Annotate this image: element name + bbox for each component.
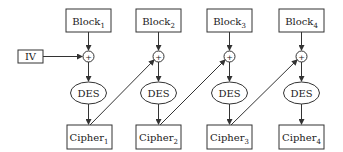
svg-text:DES: DES [290,88,312,99]
svg-text:+: + [155,53,162,62]
column-2: Block2 + DES Cipher2 [136,9,181,149]
cbc-diagram: IV Block1 + DES Cipher1 Block2 + DES Cip… [0,0,343,152]
svg-text:DES: DES [218,88,240,99]
svg-text:+: + [298,53,305,62]
iv-box: IV [18,50,43,63]
column-4: Block4 + DES Cipher4 [279,9,324,149]
svg-text:DES: DES [77,88,99,99]
svg-text:IV: IV [25,51,37,62]
column-3: Block3 + DES Cipher3 [207,9,252,149]
svg-text:+: + [226,53,233,62]
column-1: Block1 + DES Cipher1 [66,9,112,149]
svg-text:+: + [85,53,92,62]
svg-text:DES: DES [147,88,169,99]
